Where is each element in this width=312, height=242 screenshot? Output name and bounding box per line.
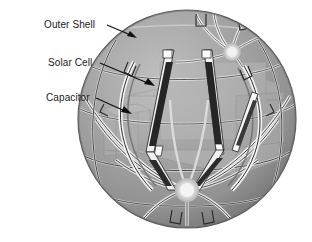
top-pole-hub xyxy=(223,43,241,61)
label-solar-cell: Solar Cell xyxy=(48,57,92,68)
label-outer-shell: Outer Shell xyxy=(44,19,95,30)
bottom-pole-hub xyxy=(175,178,199,202)
figure-container: Outer Shell Solar Cell Capacitor xyxy=(0,0,312,242)
satellite-diagram xyxy=(0,0,312,242)
label-capacitor: Capacitor xyxy=(46,92,90,103)
